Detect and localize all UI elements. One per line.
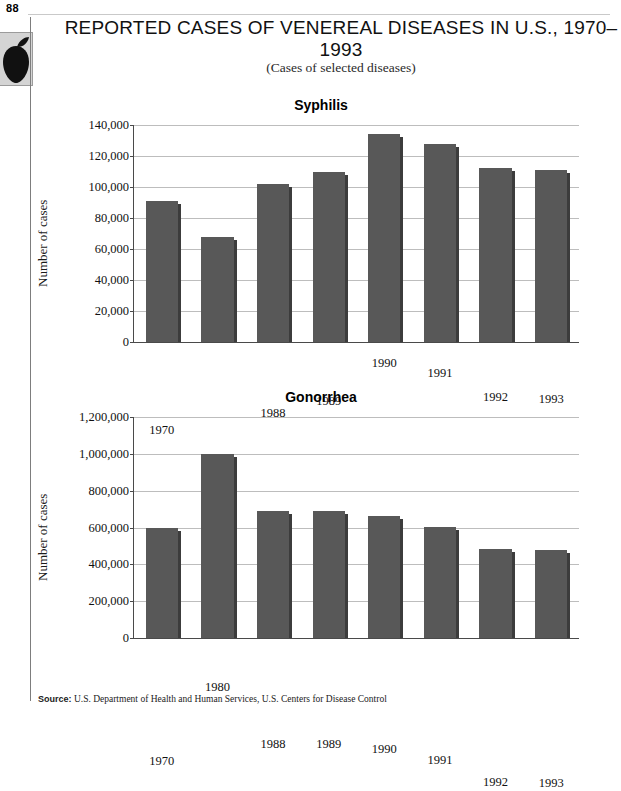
x-tick-label: 1990 [368, 356, 400, 371]
y-tick-label: 100,000 [88, 180, 129, 195]
bar-1992: 1992 [479, 168, 511, 342]
bar-face [257, 511, 289, 638]
page-title: REPORTED CASES OF VENEREAL DISEASES IN U… [61, 17, 621, 61]
y-tick-mark [130, 218, 134, 219]
gridline [134, 125, 579, 126]
bar-1988: 1988 [257, 511, 289, 638]
y-tick-label: 1,000,000 [79, 446, 129, 461]
x-tick-label: 1970 [146, 754, 178, 769]
y-tick-mark [130, 249, 134, 250]
bar-1990: 1990 [368, 516, 400, 638]
figure-frame: REPORTED CASES OF VENEREAL DISEASES IN U… [30, 17, 610, 701]
plot-area-syphilis: 020,00040,00060,00080,000100,000120,0001… [133, 125, 579, 343]
y-tick-mark [130, 125, 134, 126]
x-tick-label: 1989 [313, 737, 345, 752]
bar-face [535, 550, 567, 638]
bar-face [201, 454, 233, 638]
bar-face [201, 237, 233, 342]
header-divider [28, 14, 610, 15]
x-tick-label: 1993 [535, 776, 567, 791]
apple-icon [0, 32, 33, 86]
bar-face [257, 184, 289, 342]
bar-1980: 1980 [201, 454, 233, 638]
chart-gonorrhea: Gonorrhea Number of cases 0200,000400,00… [31, 389, 611, 669]
y-tick-mark [130, 564, 134, 565]
gridline [134, 417, 579, 418]
y-tick-label: 600,000 [88, 520, 129, 535]
figure-subtitle: (Cases of selected diseases) [61, 60, 621, 76]
y-tick-mark [130, 342, 134, 343]
bar-face [424, 144, 456, 342]
y-tick-label: 0 [123, 631, 129, 646]
bar-face [313, 511, 345, 638]
y-tick-label: 1,200,000 [79, 410, 129, 425]
bar-face [479, 168, 511, 342]
bar-1970: 1970 [146, 528, 178, 639]
y-tick-mark [130, 528, 134, 529]
x-tick-label: 1980 [201, 680, 233, 695]
y-tick-mark [130, 638, 134, 639]
bar-1991: 1991 [424, 527, 456, 638]
source-note: Source: U.S. Department of Health and Hu… [38, 694, 598, 704]
chart-title-syphilis: Syphilis [31, 97, 611, 113]
y-tick-label: 0 [123, 335, 129, 350]
bar-1990: 1990 [368, 134, 400, 342]
y-tick-label: 120,000 [88, 149, 129, 164]
plot-area-gonorrhea: 0200,000400,000600,000800,0001,000,0001,… [133, 417, 579, 639]
bar-1993: 1993 [535, 550, 567, 638]
y-tick-label: 400,000 [88, 557, 129, 572]
bar-1980: 1980 [201, 237, 233, 342]
bar-1988: 1988 [257, 184, 289, 342]
bar-1993: 1993 [535, 170, 567, 342]
bar-1989: 1989 [313, 511, 345, 638]
bar-face [313, 172, 345, 343]
y-axis-label-gonorrhea: Number of cases [35, 494, 51, 581]
x-tick-label: 1990 [368, 742, 400, 757]
bar-face [368, 516, 400, 638]
bar-face [146, 528, 178, 639]
y-tick-label: 20,000 [95, 304, 129, 319]
x-tick-label: 1991 [424, 366, 456, 381]
source-text: U.S. Department of Health and Human Serv… [74, 694, 387, 704]
y-tick-mark [130, 187, 134, 188]
y-tick-label: 60,000 [95, 242, 129, 257]
y-axis-label-syphilis: Number of cases [35, 200, 51, 287]
bar-1989: 1989 [313, 172, 345, 343]
x-tick-label: 1988 [257, 737, 289, 752]
y-tick-label: 200,000 [88, 594, 129, 609]
chart-title-gonorrhea: Gonorrhea [31, 389, 611, 405]
y-tick-mark [130, 311, 134, 312]
y-tick-mark [130, 491, 134, 492]
x-tick-label: 1992 [479, 775, 511, 790]
chart-syphilis: Syphilis Number of cases 020,00040,00060… [31, 97, 611, 377]
bar-face [535, 170, 567, 342]
y-tick-mark [130, 156, 134, 157]
bar-1970: 1970 [146, 201, 178, 342]
gridline [134, 156, 579, 157]
y-tick-mark [130, 601, 134, 602]
bar-1991: 1991 [424, 144, 456, 342]
y-tick-label: 140,000 [88, 118, 129, 133]
bar-1992: 1992 [479, 549, 511, 638]
bar-face [424, 527, 456, 638]
y-tick-mark [130, 417, 134, 418]
y-tick-mark [130, 280, 134, 281]
page-number: 88 [6, 2, 19, 14]
source-label: Source: [38, 694, 72, 704]
bar-face [479, 549, 511, 638]
y-tick-mark [130, 454, 134, 455]
x-tick-label: 1991 [424, 753, 456, 768]
bar-face [368, 134, 400, 342]
bar-face [146, 201, 178, 342]
y-tick-label: 800,000 [88, 483, 129, 498]
y-tick-label: 40,000 [95, 273, 129, 288]
y-tick-label: 80,000 [95, 211, 129, 226]
